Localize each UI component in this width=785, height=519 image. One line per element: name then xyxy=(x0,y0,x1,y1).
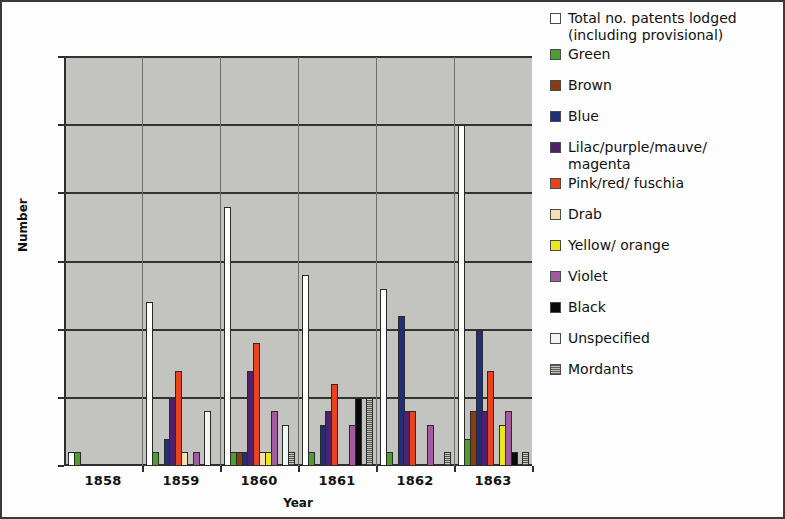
bar-unspecified-1859 xyxy=(204,411,211,466)
x-tick-mark xyxy=(298,466,300,472)
lilac-swatch xyxy=(550,142,561,153)
drab-swatch xyxy=(550,209,561,220)
chart-figure: Number 051015202530 18581859186018611862… xyxy=(0,0,785,519)
legend-label: Unspecified xyxy=(568,330,650,347)
legend-item[interactable]: Yellow/ orange xyxy=(550,237,782,254)
y-tick-mark xyxy=(58,329,64,331)
group-separator xyxy=(298,57,299,466)
group-separator xyxy=(454,57,455,466)
group-separator xyxy=(376,57,377,466)
x-tick-mark xyxy=(220,466,222,472)
legend-label: Green xyxy=(568,46,610,63)
legend-item[interactable]: Violet xyxy=(550,268,782,285)
group-separator xyxy=(142,57,143,466)
pinkred-swatch xyxy=(550,178,561,189)
bar-total-no-patents-lodged-including-provisional-1859 xyxy=(146,302,153,466)
bar-mordants-1860 xyxy=(288,452,295,466)
chart-legend: Total no. patents lodged (including prov… xyxy=(550,10,782,380)
bar-total-no-patents-lodged-including-provisional-1862 xyxy=(380,289,387,466)
bar-violet-1859 xyxy=(193,452,200,466)
x-tick-mark xyxy=(454,466,456,472)
bar-pink-red-fuschia-1861 xyxy=(331,384,338,466)
x-tick-label-1859: 1859 xyxy=(141,473,221,488)
bar-mordants-1863 xyxy=(522,452,529,466)
blue-swatch xyxy=(550,111,561,122)
bar-mordants-1861 xyxy=(366,398,373,466)
legend-label: Violet xyxy=(568,268,608,285)
legend-item[interactable]: Drab xyxy=(550,206,782,223)
x-tick-label-1863: 1863 xyxy=(453,473,533,488)
green-swatch xyxy=(550,49,561,60)
legend-item[interactable]: Green xyxy=(550,46,782,63)
bar-green-1862 xyxy=(386,452,393,466)
bar-green-1859 xyxy=(152,452,159,466)
bar-black-1863 xyxy=(511,452,518,466)
y-tick-mark xyxy=(58,124,64,126)
legend-label: Lilac/purple/mauve/ magenta xyxy=(568,139,707,173)
bar-total-no-patents-lodged-including-provisional-1863 xyxy=(458,125,465,466)
legend-item[interactable]: Unspecified xyxy=(550,330,782,347)
brown-swatch xyxy=(550,80,561,91)
y-tick-mark xyxy=(58,465,64,467)
legend-item[interactable]: Total no. patents lodged (including prov… xyxy=(550,10,782,44)
bar-mordants-1862 xyxy=(444,452,451,466)
y-tick-mark xyxy=(58,56,64,58)
bar-green-1858 xyxy=(74,452,81,466)
y-axis-title: Number xyxy=(16,198,30,252)
legend-label: Blue xyxy=(568,108,599,125)
legend-item[interactable]: Mordants xyxy=(550,361,782,378)
y-tick-mark xyxy=(58,192,64,194)
bar-total-no-patents-lodged-including-provisional-1860 xyxy=(224,207,231,466)
legend-item[interactable]: Brown xyxy=(550,77,782,94)
plot-wrapper: Number 051015202530 18581859186018611862… xyxy=(64,57,532,466)
legend-label: Brown xyxy=(568,77,612,94)
bar-violet-1860 xyxy=(271,411,278,466)
mordants-swatch xyxy=(550,364,561,375)
legend-label: Total no. patents lodged (including prov… xyxy=(568,10,737,44)
x-tick-label-1860: 1860 xyxy=(219,473,299,488)
x-tick-label-1862: 1862 xyxy=(375,473,455,488)
legend-item[interactable]: Black xyxy=(550,299,782,316)
legend-label: Black xyxy=(568,299,606,316)
x-tick-mark xyxy=(376,466,378,472)
legend-label: Drab xyxy=(568,206,602,223)
legend-item[interactable]: Blue xyxy=(550,108,782,125)
white-swatch xyxy=(550,13,561,24)
legend-label: Mordants xyxy=(568,361,633,378)
black-swatch xyxy=(550,302,561,313)
bar-black-1861 xyxy=(355,398,362,466)
bar-pink-red-fuschia-1860 xyxy=(253,343,260,466)
bar-pink-red-fuschia-1863 xyxy=(487,371,494,466)
legend-label: Pink/red/ fuschia xyxy=(568,175,684,192)
yellow-swatch xyxy=(550,240,561,251)
bar-pink-red-fuschia-1862 xyxy=(409,411,416,466)
bar-total-no-patents-lodged-including-provisional-1861 xyxy=(302,275,309,466)
bar-violet-1862 xyxy=(427,425,434,466)
x-tick-label-1861: 1861 xyxy=(297,473,377,488)
unspecified-swatch xyxy=(550,333,561,344)
x-tick-mark xyxy=(532,466,534,472)
y-tick-mark xyxy=(58,397,64,399)
legend-item[interactable]: Lilac/purple/mauve/ magenta xyxy=(550,139,782,173)
bar-green-1861 xyxy=(308,452,315,466)
legend-item[interactable]: Pink/red/ fuschia xyxy=(550,175,782,192)
x-axis-title: Year xyxy=(64,496,532,510)
bar-drab-1859 xyxy=(181,452,188,466)
x-tick-mark xyxy=(142,466,144,472)
y-tick-mark xyxy=(58,261,64,263)
legend-label: Yellow/ orange xyxy=(568,237,670,254)
violet-swatch xyxy=(550,271,561,282)
group-separator xyxy=(220,57,221,466)
x-tick-label-1858: 1858 xyxy=(63,473,143,488)
